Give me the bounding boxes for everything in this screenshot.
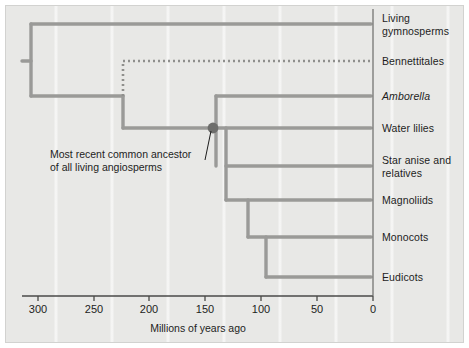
tip-label-amborella: Amborella <box>382 90 430 103</box>
tip-label-water-lilies: Water lilies <box>382 122 434 135</box>
x-tick-label-250: 250 <box>85 303 103 315</box>
tip-label-bennettitales: Bennettitales <box>382 55 444 68</box>
tip-label-magnoliids: Magnoliids <box>382 194 433 207</box>
mrca-node-marker <box>208 123 219 134</box>
tip-label-eudicots: Eudicots <box>382 271 423 284</box>
x-tick-label-150: 150 <box>196 303 214 315</box>
tip-label-living-gymnosperms: Living gymnosperms <box>382 12 449 37</box>
phylogenetic-tree-figure: Living gymnosperms Bennettitales Amborel… <box>0 0 469 348</box>
x-tick-label-100: 100 <box>252 303 270 315</box>
x-tick-label-50: 50 <box>311 303 323 315</box>
mrca-annotation: Most recent common ancestor of all livin… <box>50 148 191 173</box>
x-axis-title: Millions of years ago <box>150 322 246 334</box>
tip-label-star-anise: Star anise and relatives <box>382 154 451 179</box>
x-tick-label-0: 0 <box>370 303 376 315</box>
annotation-leader-line <box>205 131 211 160</box>
tip-label-monocots: Monocots <box>382 231 428 244</box>
x-tick-label-200: 200 <box>140 303 158 315</box>
x-tick-label-300: 300 <box>29 303 47 315</box>
